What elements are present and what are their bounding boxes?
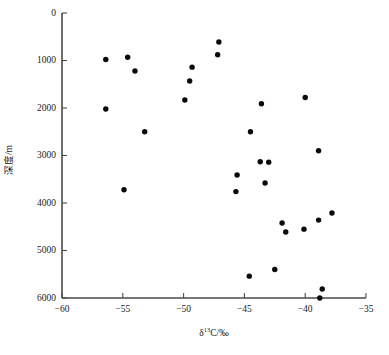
data-point bbox=[283, 229, 288, 234]
data-point bbox=[302, 95, 307, 100]
y-tick-label: 6000 bbox=[37, 293, 56, 303]
data-point bbox=[125, 54, 130, 59]
data-point bbox=[234, 172, 239, 177]
scatter-plot: 0100020003000400050006000 −60−55−50−45−4… bbox=[0, 0, 389, 355]
data-point bbox=[279, 220, 284, 225]
data-point bbox=[233, 189, 238, 194]
x-tick-label: −35 bbox=[359, 304, 374, 314]
x-tick-label: −55 bbox=[115, 304, 130, 314]
data-point bbox=[272, 267, 277, 272]
y-tick-label: 4000 bbox=[37, 198, 56, 208]
data-point bbox=[316, 148, 321, 153]
data-point bbox=[216, 39, 221, 44]
x-tick-label: −60 bbox=[55, 304, 70, 314]
data-point bbox=[103, 57, 108, 62]
data-point bbox=[316, 217, 321, 222]
data-point bbox=[182, 97, 187, 102]
y-tick-label: 0 bbox=[51, 8, 56, 18]
y-tick-label: 1000 bbox=[37, 55, 56, 65]
y-tick-label: 3000 bbox=[37, 150, 56, 160]
data-point bbox=[132, 68, 137, 73]
data-point bbox=[189, 64, 194, 69]
data-point bbox=[248, 129, 253, 134]
data-point bbox=[301, 226, 306, 231]
y-axis-group: 0100020003000400050006000 bbox=[37, 8, 67, 303]
data-point bbox=[329, 210, 334, 215]
data-point bbox=[257, 159, 262, 164]
y-axis-title: 深度/m bbox=[3, 144, 14, 175]
y-tick-label: 5000 bbox=[37, 245, 56, 255]
figure-container: 0100020003000400050006000 −60−55−50−45−4… bbox=[0, 0, 389, 355]
data-point bbox=[103, 106, 108, 111]
data-point bbox=[142, 129, 147, 134]
x-tick-label: −40 bbox=[298, 304, 313, 314]
data-point bbox=[187, 78, 192, 83]
data-point bbox=[121, 187, 126, 192]
x-axis-group: −60−55−50−45−40−35 bbox=[55, 293, 374, 314]
y-tick-label: 2000 bbox=[37, 103, 56, 113]
data-point bbox=[266, 159, 271, 164]
data-point bbox=[215, 52, 220, 57]
data-point bbox=[262, 180, 267, 185]
x-axis-title: δ13C/‰ bbox=[199, 326, 229, 338]
x-tick-label: −50 bbox=[176, 304, 191, 314]
data-point bbox=[259, 101, 264, 106]
x-axis-ticks: −60−55−50−45−40−35 bbox=[55, 293, 374, 314]
data-point bbox=[317, 295, 322, 300]
data-points-layer bbox=[103, 39, 335, 300]
data-point bbox=[247, 273, 252, 278]
x-tick-label: −45 bbox=[237, 304, 252, 314]
data-point bbox=[320, 286, 325, 291]
